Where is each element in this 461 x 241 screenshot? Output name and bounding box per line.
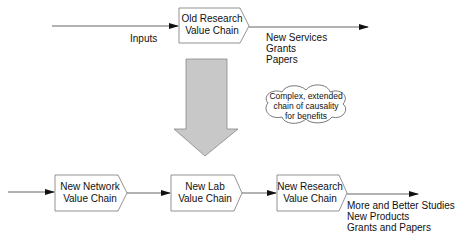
top-outputs: New Services Grants Papers (266, 32, 327, 65)
new-research-label: New Research Value Chain (277, 181, 343, 205)
box-line-2: Value Chain (171, 193, 239, 205)
cloud-label: Complex, extended chain of causality for… (266, 91, 346, 121)
output-item: Grants (266, 43, 327, 54)
cloud-line: chain of causality (266, 101, 346, 111)
box-line-2: Value Chain (179, 25, 245, 37)
box-line-1: New Lab (171, 181, 239, 193)
output-item: New Services (266, 32, 327, 43)
new-lab-label: New Lab Value Chain (171, 181, 239, 205)
inputs-label: Inputs (130, 33, 157, 44)
output-item: Papers (266, 54, 327, 65)
bottom-outputs: More and Better Studies New Products Gra… (347, 200, 455, 233)
output-item: New Products (347, 211, 455, 222)
box-line-1: Old Research (179, 13, 245, 25)
old-research-label: Old Research Value Chain (179, 13, 245, 37)
cloud-line: Complex, extended (266, 91, 346, 101)
output-item: Grants and Papers (347, 222, 455, 233)
cloud-line: for benefits (266, 111, 346, 121)
output-item: More and Better Studies (347, 200, 455, 211)
big-down-arrow (174, 59, 238, 156)
box-line-2: Value Chain (56, 193, 124, 205)
box-line-2: Value Chain (277, 193, 343, 205)
box-line-1: New Research (277, 181, 343, 193)
box-line-1: New Network (56, 181, 124, 193)
new-network-label: New Network Value Chain (56, 181, 124, 205)
